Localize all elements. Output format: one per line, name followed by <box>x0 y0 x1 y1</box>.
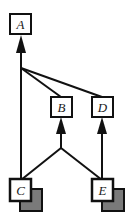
edge-d-to-a <box>21 68 102 97</box>
node-d[interactable]: D <box>92 97 113 117</box>
edge-e-to-b <box>61 148 102 180</box>
node-d-label: D <box>97 100 108 115</box>
arrowhead-a <box>16 35 26 53</box>
edge-c-to-b <box>21 148 61 180</box>
node-e[interactable]: E <box>92 179 124 211</box>
arrowhead-d <box>97 117 107 134</box>
dependency-diagram: A B D C E <box>0 0 129 221</box>
node-c-label: C <box>16 183 25 198</box>
node-a[interactable]: A <box>10 14 31 34</box>
node-b[interactable]: B <box>51 97 72 117</box>
node-e-label: E <box>98 183 107 198</box>
arrowhead-b <box>56 117 66 134</box>
node-a-label: A <box>16 17 25 32</box>
edge-b-to-a <box>21 68 61 97</box>
node-b-label: B <box>58 100 66 115</box>
node-c[interactable]: C <box>10 179 42 211</box>
